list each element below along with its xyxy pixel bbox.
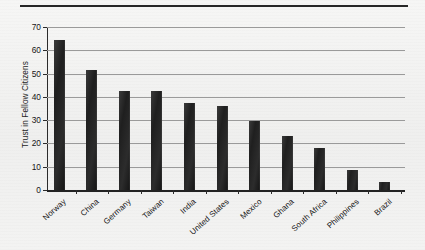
x-tick-label: Philippines bbox=[325, 195, 363, 230]
y-tick-label: 40 bbox=[15, 91, 41, 101]
x-tick-mark bbox=[303, 190, 304, 194]
x-tick-mark bbox=[206, 190, 207, 194]
y-tick-label: 50 bbox=[15, 68, 41, 78]
x-tick-mark bbox=[141, 190, 142, 194]
x-tick-label: Germany bbox=[102, 195, 135, 226]
y-tick-mark bbox=[43, 120, 47, 121]
gridline bbox=[47, 97, 405, 98]
x-tick-label: Ghana bbox=[272, 195, 298, 220]
bar bbox=[249, 121, 260, 190]
x-tick-label-text: Taiwan bbox=[141, 195, 168, 221]
x-tick-label: China bbox=[79, 195, 103, 218]
x-tick-label-text: Ghana bbox=[272, 195, 298, 220]
gridline bbox=[47, 50, 405, 51]
bar-chart: Trust in Fellow Citizens 010203040506070… bbox=[0, 0, 425, 250]
x-tick-label: Taiwan bbox=[141, 195, 168, 221]
x-tick-label-text: Mexico bbox=[238, 195, 266, 221]
x-tick-label: Mexico bbox=[238, 195, 266, 221]
y-tick-label: 10 bbox=[15, 161, 41, 171]
x-tick-label-text: Philippines bbox=[325, 195, 363, 230]
bar bbox=[217, 106, 228, 190]
bar bbox=[151, 91, 162, 190]
y-tick-label: 0 bbox=[15, 185, 41, 195]
x-axis-line bbox=[47, 190, 405, 192]
y-tick-mark bbox=[43, 50, 47, 51]
x-tick-mark bbox=[336, 190, 337, 194]
y-tick-mark bbox=[43, 97, 47, 98]
bar bbox=[86, 70, 97, 190]
x-tick-label-text: Germany bbox=[102, 195, 135, 226]
x-tick-label-text: Norway bbox=[41, 195, 70, 222]
bar bbox=[282, 136, 293, 190]
x-tick-label: Norway bbox=[41, 195, 70, 222]
x-tick-label: India bbox=[179, 195, 201, 216]
x-tick-mark bbox=[238, 190, 239, 194]
y-tick-mark bbox=[43, 27, 47, 28]
y-tick-label: 20 bbox=[15, 138, 41, 148]
x-tick-mark bbox=[173, 190, 174, 194]
y-tick-mark bbox=[43, 74, 47, 75]
y-tick-mark bbox=[43, 190, 47, 191]
plot-area: 010203040506070 NorwayChinaGermanyTaiwan… bbox=[47, 27, 405, 190]
x-tick-label-text: India bbox=[179, 195, 201, 216]
y-axis-line bbox=[47, 27, 48, 190]
x-tick-mark bbox=[76, 190, 77, 194]
y-tick-mark bbox=[43, 143, 47, 144]
bar bbox=[54, 40, 65, 190]
x-tick-label-text: China bbox=[79, 195, 103, 218]
x-tick-label-text: Brazil bbox=[372, 195, 396, 217]
bar bbox=[347, 170, 358, 190]
y-axis-title: Trust in Fellow Citizens bbox=[21, 35, 30, 175]
x-tick-mark bbox=[401, 190, 402, 194]
x-tick-mark bbox=[368, 190, 369, 194]
x-tick-mark bbox=[271, 190, 272, 194]
bar bbox=[379, 182, 390, 190]
gridline bbox=[47, 27, 405, 28]
x-tick-mark bbox=[108, 190, 109, 194]
gridline bbox=[47, 74, 405, 75]
y-tick-label: 60 bbox=[15, 45, 41, 55]
bar bbox=[314, 148, 325, 190]
x-tick-label: Brazil bbox=[372, 195, 396, 217]
y-tick-label: 30 bbox=[15, 115, 41, 125]
bar bbox=[119, 91, 130, 190]
y-tick-label: 70 bbox=[15, 22, 41, 32]
bar bbox=[184, 103, 195, 190]
y-tick-mark bbox=[43, 167, 47, 168]
